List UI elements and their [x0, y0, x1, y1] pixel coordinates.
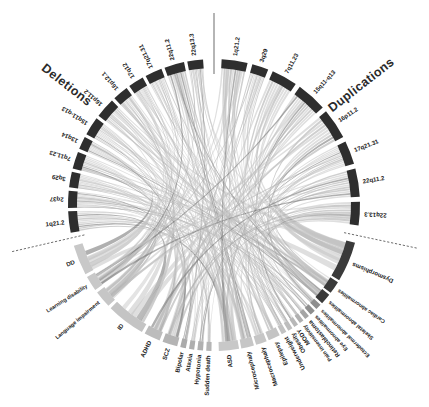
- segment-label: Learning disability: [45, 283, 88, 314]
- segment-label: 1q21.2: [231, 36, 241, 56]
- segment-label: 22q11.2: [362, 174, 385, 184]
- segment-label: 17q12: [120, 61, 135, 80]
- group-divider: [11, 235, 84, 252]
- segment-label: Dysmorphisms: [350, 261, 394, 285]
- arc-segment: [189, 340, 195, 350]
- segment-label: DD: [65, 258, 76, 268]
- segment-label: ID: [116, 322, 126, 332]
- segment-label: 7q11.23: [283, 51, 300, 74]
- segment-label: 3q29: [51, 174, 67, 183]
- chord-diagram-svg: 1q21.22q373q297q11.2313q1415q11-q1316p11…: [0, 0, 429, 407]
- segment-label: 13q14: [60, 131, 79, 145]
- segment-label: 15q11-q13: [60, 105, 89, 127]
- arc-segment: [219, 340, 240, 351]
- segment-label: 7q11.23: [48, 149, 72, 163]
- segment-label: Ataxia: [184, 352, 194, 372]
- arc-segment: [206, 342, 211, 351]
- arc-segment: [337, 141, 354, 166]
- segment-label: 17q21.31: [353, 137, 380, 153]
- segment-label: 22q11.2: [163, 38, 176, 62]
- segment-label: Sudden death: [203, 355, 211, 396]
- segment-label: 22q13.3: [187, 33, 197, 57]
- segment-label: Hypotonia: [193, 354, 203, 385]
- segment-label: ADHD: [139, 339, 153, 358]
- segment-label: 3q29: [258, 47, 269, 63]
- arc-segment: [180, 338, 187, 348]
- segment-label: 17q21.31: [137, 43, 154, 70]
- segment-label: 15q11-q13: [312, 68, 337, 95]
- segment-label: ASD: [225, 354, 233, 368]
- circos-figure: 1q21.22q373q297q11.2313q1415q11-q1316p11…: [0, 0, 429, 407]
- segment-label: 22q13.3: [363, 211, 386, 219]
- segment-label: Microcephaly: [244, 350, 260, 390]
- segment-label: SCZ: [161, 347, 171, 361]
- deletions-title: Deletions: [39, 61, 95, 109]
- segment-label: 1q21.2: [45, 218, 65, 227]
- arc-segment: [68, 191, 78, 208]
- arc-segment: [265, 327, 279, 340]
- arc-segment: [350, 202, 360, 226]
- duplications-title: Duplications: [326, 55, 398, 115]
- group-divider: [344, 233, 417, 249]
- segment-label: Language impairment: [54, 299, 101, 340]
- segment-label: 2q37: [49, 196, 64, 204]
- arc-segment: [197, 341, 203, 350]
- segment-label: 16p12.1: [99, 70, 119, 92]
- chord-ribbon-layer: [77, 68, 351, 342]
